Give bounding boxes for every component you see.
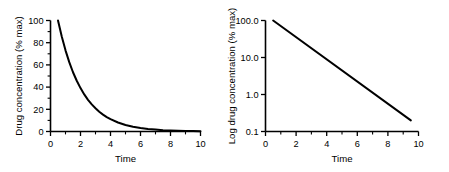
log-x-tick-labels: 0 2 4 6 8 10 <box>262 139 423 149</box>
log-concentration-panel: 0.1 1.0 10.0 100.0 0 2 4 6 8 10 Time Log… <box>225 0 449 172</box>
linear-y-tick-labels: 0 20 40 60 80 100 <box>28 16 43 137</box>
log-x-tick-label: 2 <box>293 139 298 149</box>
log-x-tick-label: 8 <box>385 139 390 149</box>
linear-x-tick-label: 0 <box>48 139 53 149</box>
log-x-tick-label: 10 <box>413 139 423 149</box>
log-x-tick-label: 4 <box>324 139 329 149</box>
log-x-tick-label: 0 <box>262 139 267 149</box>
linear-y-tick-label: 100 <box>28 16 43 26</box>
linear-y-tick-label: 40 <box>33 82 43 92</box>
linear-y-tick-label: 60 <box>33 60 43 70</box>
linear-y-axis-title: Drug concentration (% max) <box>13 16 24 135</box>
log-y-tick-label: 100.0 <box>235 16 258 26</box>
linear-y-tick-label: 80 <box>33 38 43 48</box>
linear-plot-svg: 0 20 40 60 80 100 0 2 4 6 8 10 Time Drug… <box>0 0 225 172</box>
pharmacokinetics-figure: 0 20 40 60 80 100 0 2 4 6 8 10 Time Drug… <box>0 0 449 172</box>
log-x-axis-title: Time <box>331 153 352 164</box>
linear-concentration-panel: 0 20 40 60 80 100 0 2 4 6 8 10 Time Drug… <box>0 0 225 172</box>
log-y-axis-title: Log drug concentration (% max) <box>226 8 237 145</box>
linear-x-tick-labels: 0 2 4 6 8 10 <box>48 139 206 149</box>
log-y-tick-label: 0.1 <box>245 127 258 137</box>
linear-x-tick-label: 8 <box>168 139 173 149</box>
linear-x-tick-label: 4 <box>108 139 113 149</box>
log-y-tick-labels: 0.1 1.0 10.0 100.0 <box>235 16 258 137</box>
log-x-tick-label: 6 <box>354 139 359 149</box>
log-plot-svg: 0.1 1.0 10.0 100.0 0 2 4 6 8 10 Time Log… <box>225 0 449 172</box>
log-decay-line <box>273 21 411 121</box>
linear-x-tick-label: 10 <box>195 139 205 149</box>
linear-axes <box>51 21 201 132</box>
linear-y-tick-label: 20 <box>33 105 43 115</box>
linear-x-tick-label: 6 <box>138 139 143 149</box>
log-y-tick-label: 10.0 <box>240 53 258 63</box>
linear-decay-curve <box>58 21 201 132</box>
linear-x-tick-label: 2 <box>78 139 83 149</box>
linear-y-tick-label: 0 <box>38 127 43 137</box>
log-axes <box>265 21 418 132</box>
log-y-tick-label: 1.0 <box>245 90 258 100</box>
linear-x-axis-title: Time <box>115 153 136 164</box>
